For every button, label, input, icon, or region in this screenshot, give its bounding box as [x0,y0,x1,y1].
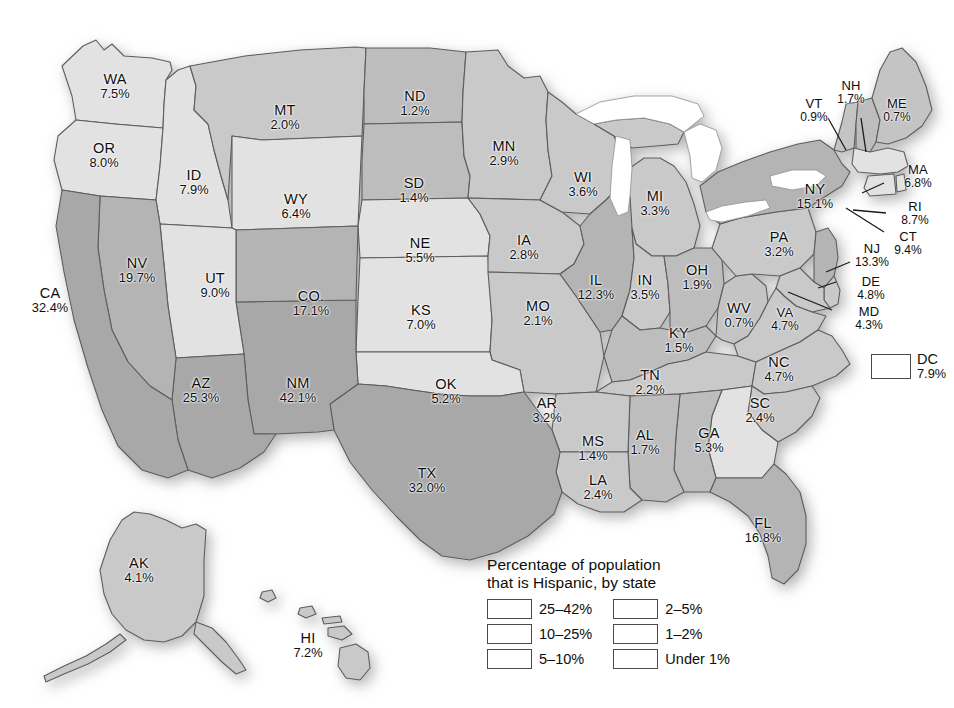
legend-swatch [487,649,532,669]
legend-swatch [613,599,658,619]
island-hawaii [338,644,370,680]
hawaii-inset [260,590,370,680]
state-AK [100,512,206,642]
state-ME [872,48,932,144]
state-ND [364,48,466,124]
label-percent: 7.9% [917,367,946,380]
state-VT [834,102,858,152]
dc-key: DC 7.9% [871,352,946,381]
state-KS [356,256,492,352]
dc-swatch [871,354,911,379]
mainland-group [54,40,932,584]
state-TX [330,384,562,560]
state-MN [462,50,552,200]
state-AR [552,392,630,452]
state-WA [62,40,172,128]
map-legend: Percentage of population that is Hispani… [487,556,737,669]
state-WY [232,136,362,230]
legend-label: 1–2% [665,626,702,642]
legend-label: Under 1% [665,651,729,667]
leader-RI [853,210,886,213]
island-kauai [260,590,276,602]
legend-swatch [613,624,658,644]
legend-title-line1: Percentage of population [487,556,737,574]
legend-swatch [613,649,658,669]
island-oahu [298,606,316,618]
legend-title: Percentage of population that is Hispani… [487,556,737,592]
legend-item: 25–42% [487,599,599,619]
label-abbr: DC [917,352,946,367]
legend-item: 2–5% [613,599,737,619]
island-molokai [322,616,342,624]
map-canvas: WA 7.5% OR 8.0% ID 7.9% MT 2.0% WY 6.4% … [0,0,954,708]
legend-label: 10–25% [539,626,592,642]
state-CO [236,226,358,302]
legend-item: 1–2% [613,624,737,644]
state-MS [628,394,684,502]
alaska-panhandle [194,622,246,674]
legend-title-line2: that is Hispanic, by state [487,574,737,592]
state-MI [628,158,700,256]
legend-label: 5–10% [539,651,584,667]
island-maui [328,626,352,640]
legend-item: 10–25% [487,624,599,644]
legend-label: 2–5% [665,601,702,617]
legend-item: Under 1% [613,649,737,669]
us-states-choropleth [0,0,954,708]
dc-label: DC 7.9% [917,352,946,381]
legend-label: 25–42% [539,601,592,617]
state-RI [896,174,906,192]
alaska-aleutians [44,634,126,682]
legend-swatch [487,599,532,619]
state-NE [358,198,490,258]
state-MA [852,148,908,174]
state-SD [362,122,470,200]
state-OR [54,120,163,200]
legend-item: 5–10% [487,649,599,669]
alaska-inset [44,512,246,682]
legend-rows: 25–42% 2–5% 10–25% 1–2% 5–10% Under 1% [487,599,737,669]
state-OH [664,248,724,332]
legend-swatch [487,624,532,644]
